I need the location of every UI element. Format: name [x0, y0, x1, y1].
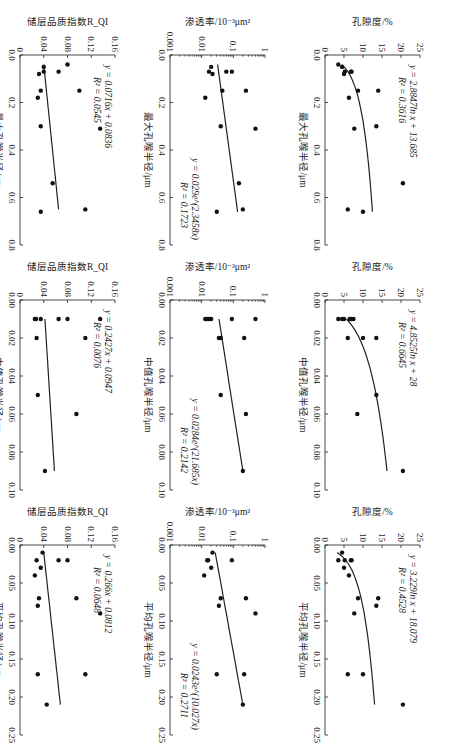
x-tick-label: 0.4	[157, 144, 167, 156]
x-tick-label: 0.25	[312, 727, 322, 743]
y-tick-label: 15	[377, 288, 387, 298]
data-point	[347, 573, 351, 577]
r-squared: R² = 0.4528	[397, 566, 407, 613]
fit-curve	[337, 553, 374, 705]
x-tick-label: 0.25	[157, 727, 167, 743]
y-tick-label: 0.08	[63, 281, 73, 297]
x-tick-label: 0.6	[312, 192, 322, 204]
r-squared: R² = 0.1723	[179, 181, 189, 228]
data-point	[376, 596, 380, 600]
data-point	[83, 207, 87, 211]
data-point	[98, 317, 102, 321]
data-point	[230, 558, 234, 562]
data-point	[349, 558, 353, 562]
x-axis-label: 最大孔喉半径/μm	[298, 112, 309, 188]
data-point	[401, 702, 405, 706]
data-point	[36, 393, 40, 397]
data-point	[83, 672, 87, 676]
x-tick-label: 0.2	[312, 97, 322, 108]
x-tick-label: 0.02	[157, 330, 167, 346]
y-tick-label: 0.1	[228, 531, 238, 542]
x-tick-label: 0.25	[7, 727, 17, 743]
y-tick-label: 5	[339, 538, 349, 543]
y-tick-label: 15	[377, 533, 387, 543]
panel-rqi-vs-median: 0.000.020.040.060.080.1000.040.080.120.1…	[0, 261, 120, 498]
y-tick-label: 20	[396, 43, 406, 53]
data-point	[346, 336, 350, 340]
data-point	[42, 65, 46, 69]
fit-curve	[44, 65, 59, 210]
data-point	[56, 558, 60, 562]
panel-rqi-vs-max: 0.00.20.40.60.800.040.080.120.16最大孔喉半径/μ…	[0, 16, 120, 251]
data-point	[36, 672, 40, 676]
panel-porosity-vs-mean: 0.000.050.100.150.200.250510152025平均孔喉半径…	[298, 506, 425, 743]
y-tick-label: 0.001	[165, 277, 175, 297]
x-tick-label: 0.6	[157, 192, 167, 204]
data-point	[74, 596, 78, 600]
r-squared: R² = 0.2711	[179, 672, 189, 718]
y-tick-label: 0	[15, 538, 25, 543]
data-point	[39, 566, 43, 570]
y-tick-label: 0.01	[197, 36, 207, 52]
r-squared: R² = 0.3616	[397, 76, 407, 123]
x-tick-label: 0.20	[7, 689, 17, 705]
x-axis-label: 中值孔喉半径/μm	[298, 357, 309, 433]
data-point	[217, 336, 221, 340]
x-tick-label: 0.08	[157, 444, 167, 460]
fit-curve	[218, 65, 238, 212]
y-tick-label: 10	[358, 288, 368, 298]
x-tick-label: 0.08	[312, 444, 322, 460]
data-point	[203, 96, 207, 100]
data-point	[342, 566, 346, 570]
panel-permeability-vs-median: 0.000.020.040.060.080.100.0010.010.11中值孔…	[143, 261, 270, 498]
x-tick-label: 0.04	[157, 368, 167, 384]
data-point	[83, 336, 87, 340]
data-point	[39, 124, 43, 128]
data-point	[336, 558, 340, 562]
y-tick-label: 0.01	[197, 281, 207, 297]
x-tick-label: 0.05	[157, 575, 167, 591]
data-point	[241, 469, 245, 473]
x-tick-label: 0.10	[157, 482, 167, 498]
data-point	[401, 181, 405, 185]
fit-equation: y = 0.029e^(2.3458x)	[189, 157, 200, 240]
data-point	[352, 126, 356, 130]
y-axis-label: 孔隙度/%	[352, 506, 393, 517]
data-point	[374, 336, 378, 340]
data-point	[206, 558, 210, 562]
x-tick-label: 0.15	[312, 651, 322, 667]
data-point	[39, 88, 43, 92]
data-point	[65, 317, 69, 321]
rotated-figure-group: 0.00.20.40.60.80510152025最大孔喉半径/μm孔隙度/%y…	[0, 16, 425, 743]
fit-curve	[215, 553, 243, 705]
data-point	[336, 317, 340, 321]
y-tick-label: 25	[415, 533, 425, 543]
y-tick-label: 0.04	[39, 36, 49, 52]
data-point	[340, 65, 344, 69]
panel-permeability-vs-max: 0.00.20.40.60.80.0010.010.11最大孔喉半径/μm渗透率…	[143, 16, 270, 251]
data-point	[374, 393, 378, 397]
data-point	[241, 702, 245, 706]
y-tick-label: 0	[320, 293, 330, 298]
r-squared: R² = 0.6645	[397, 321, 407, 368]
x-tick-label: 0.06	[312, 406, 322, 422]
data-point	[242, 336, 246, 340]
data-point	[98, 126, 102, 130]
x-tick-label: 0.6	[7, 192, 17, 204]
x-axis-label: 平均孔喉半径/μm	[0, 602, 4, 678]
data-point	[348, 317, 352, 321]
data-point	[356, 88, 360, 92]
data-point	[209, 566, 213, 570]
data-point	[215, 210, 219, 214]
data-point	[244, 596, 248, 600]
data-point	[202, 573, 206, 577]
data-point	[56, 317, 60, 321]
y-axis-label: 渗透率/10⁻³μm²	[185, 16, 250, 27]
data-point	[237, 181, 241, 185]
y-tick-label: 0.16	[110, 526, 120, 542]
data-point	[241, 207, 245, 211]
panel-permeability-vs-mean: 0.000.050.100.150.200.250.0010.010.11平均孔…	[143, 506, 270, 743]
x-tick-label: 0.10	[7, 482, 17, 498]
data-point	[253, 611, 257, 615]
data-point	[34, 336, 38, 340]
